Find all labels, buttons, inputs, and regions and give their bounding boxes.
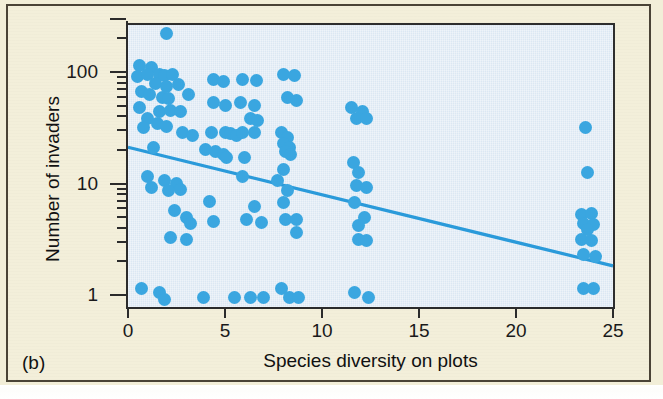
scatter-point [207,215,220,228]
scatter-point [362,291,375,304]
scatter-point [143,88,156,101]
x-axis-title: Species diversity on plots [128,350,613,372]
x-tick [321,309,323,318]
y-tick-minor [117,207,126,209]
scatter-point [217,75,230,88]
x-tick-label: 5 [220,320,231,342]
x-tick-label: 25 [602,320,623,342]
y-tick-minor [117,96,126,98]
scatter-point [248,99,261,112]
scatter-point [244,291,257,304]
y-tick-minor [117,216,126,218]
x-tick-label: 10 [311,320,332,342]
scatter-point [248,200,261,213]
scatter-point [277,196,290,209]
y-axis-spine [126,21,128,309]
y-tick-minor [117,260,126,262]
y-tick-minor [117,37,126,39]
scatter-point [228,291,241,304]
y-tick-minor [117,200,126,202]
scatter-point [147,141,160,154]
y-tick-major [110,183,126,185]
y-tick-minor [117,193,126,195]
page-edge-shadow [0,385,663,399]
scatter-point [236,73,249,86]
x-tick [612,309,614,318]
y-tick-minor [117,88,126,90]
scatter-point [135,282,148,295]
x-tick [418,309,420,318]
regression-line [128,25,613,309]
scatter-point [220,151,233,164]
scatter-point [587,282,600,295]
scatter-point [182,88,195,101]
scatter-point [257,291,270,304]
scatter-point [250,74,263,87]
scatter-point [197,291,210,304]
x-tick [127,309,129,318]
scatter-point [292,291,305,304]
scatter-point [207,96,220,109]
x-tick [515,309,517,318]
x-axis-spine [126,307,615,309]
x-tick-label: 15 [408,320,429,342]
plot-area [128,23,615,309]
scatter-point [174,105,187,118]
scatter-point [255,216,268,229]
y-tick-major [110,71,126,73]
y-tick-label: 1 [87,284,98,306]
figure-panel: 0510152025 110100 Number of invaders Spe… [0,0,663,399]
scatter-point [281,184,294,197]
y-tick-minor [117,105,126,107]
y-tick-minor [117,82,126,84]
y-tick-label: 10 [77,173,98,195]
panel-letter: (b) [22,352,45,374]
trendline-segment [128,147,613,266]
scatter-point [360,112,373,125]
y-tick-minor [117,241,126,243]
scatter-point [160,120,173,133]
y-tick-minor [117,115,126,117]
scatter-point [184,217,197,230]
scatter-point [180,233,193,246]
x-tick-label: 0 [123,320,134,342]
scatter-point [238,151,251,164]
y-tick-minor [110,18,126,20]
y-tick-minor [117,227,126,229]
scatter-point [186,129,199,142]
scatter-point [174,183,187,196]
scatter-point [240,213,253,226]
scatter-point [168,204,181,217]
scatter-point [219,99,232,112]
y-tick-minor [117,149,126,151]
y-tick-minor [117,188,126,190]
y-tick-minor [117,76,126,78]
y-tick-major [110,294,126,296]
y-tick-label: 100 [66,61,98,83]
y-axis-title: Number of invaders [42,64,64,294]
x-tick-label: 20 [505,320,526,342]
scatter-point [248,126,261,139]
x-tick [224,309,226,318]
scatter-point [205,126,218,139]
scatter-point [290,213,303,226]
y-tick-minor [117,129,126,131]
scatter-point [203,195,216,208]
